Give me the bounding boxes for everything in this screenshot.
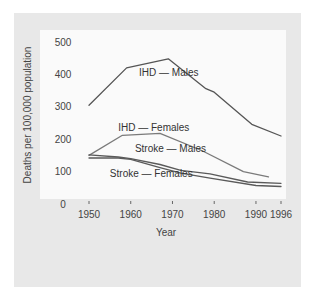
y-tick-label: 400 [55,69,72,80]
y-tick-label: 300 [55,101,72,112]
x-tick-label: 1970 [161,209,184,220]
x-axis-title: Year [156,227,177,238]
y-tick-label: 500 [55,37,72,48]
x-tick-label: 1996 [270,209,293,220]
y-tick-label: 200 [55,134,72,145]
x-tick-label: 1950 [78,209,101,220]
series-label-1: IHD — Females [118,122,189,133]
x-tick-label: 1980 [203,209,226,220]
x-tick-label: 1990 [245,209,268,220]
y-axis-title: Deaths per 100,000 population [22,47,33,184]
x-tick-label: 1960 [120,209,143,220]
series-label-3: Stroke — Females [110,168,193,179]
x-axis-ticks: 195019601970198019901996 [78,201,293,220]
y-tick-label: 0 [60,199,66,210]
line-chart: 0100200300400500 19501960197019801990199… [0,0,311,297]
series-label-0: IHD — Males [139,67,198,78]
y-tick-label: 100 [55,166,72,177]
series-label-2: Stroke — Males [135,143,206,154]
